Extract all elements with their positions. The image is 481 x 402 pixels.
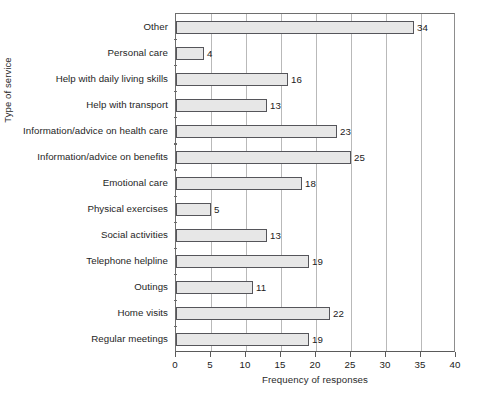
- x-axis-title: Frequency of responses: [175, 374, 455, 385]
- category-label: Physical exercises: [87, 202, 168, 215]
- bar-value-label: 16: [288, 73, 302, 86]
- bar: [176, 47, 204, 60]
- x-axis-tick: [210, 352, 211, 357]
- category-label: Other: [144, 20, 168, 33]
- bar: [176, 307, 330, 320]
- category-label: Emotional care: [103, 176, 168, 189]
- x-axis-tick-label: 25: [335, 359, 365, 370]
- category-label: Information/advice on health care: [23, 124, 168, 137]
- x-axis-tick-label: 5: [195, 359, 225, 370]
- bar: [176, 255, 309, 268]
- x-axis-tick: [350, 352, 351, 357]
- bar-value-label: 23: [337, 125, 351, 138]
- category-label: Help with daily living skills: [56, 72, 168, 85]
- bar-value-label: 13: [267, 229, 281, 242]
- bar: [176, 21, 414, 34]
- x-axis-tick: [385, 352, 386, 357]
- bar: [176, 333, 309, 346]
- bar-value-label: 34: [414, 21, 428, 34]
- category-label: Home visits: [117, 306, 168, 319]
- x-axis-tick: [175, 352, 176, 357]
- bar-value-label: 19: [309, 333, 323, 346]
- category-label: Outings: [134, 280, 168, 293]
- y-axis-tick: [174, 91, 178, 92]
- y-axis-tick: [174, 117, 178, 118]
- gridline: [316, 14, 317, 351]
- bar: [176, 177, 302, 190]
- bar: [176, 229, 267, 242]
- gridline: [421, 14, 422, 351]
- category-axis-labels: OtherPersonal careHelp with daily living…: [0, 13, 172, 352]
- bar-value-label: 22: [330, 307, 344, 320]
- y-axis-tick: [174, 169, 178, 170]
- y-axis-tick: [174, 39, 178, 40]
- bar-value-label: 25: [351, 151, 365, 164]
- y-axis-tick: [174, 300, 178, 301]
- x-axis-tick-label: 30: [370, 359, 400, 370]
- bar: [176, 203, 211, 216]
- bar-value-label: 4: [204, 47, 212, 60]
- y-axis-tick: [174, 222, 178, 223]
- category-label: Information/advice on benefits: [37, 150, 168, 163]
- gridline: [351, 14, 352, 351]
- x-axis-tick: [245, 352, 246, 357]
- x-axis-tick-label: 35: [405, 359, 435, 370]
- y-axis-tick: [174, 248, 178, 249]
- x-axis-tick-label: 0: [160, 359, 190, 370]
- x-axis-tick: [455, 352, 456, 357]
- y-axis-tick: [174, 65, 178, 66]
- x-axis-tick-label: 15: [265, 359, 295, 370]
- category-label: Help with transport: [86, 98, 168, 111]
- bar-value-label: 13: [267, 99, 281, 112]
- bar: [176, 99, 267, 112]
- category-label: Regular meetings: [91, 332, 168, 345]
- gridline: [386, 14, 387, 351]
- bar-value-label: 11: [253, 281, 266, 294]
- bar-value-label: 5: [211, 203, 219, 216]
- y-axis-tick: [174, 326, 178, 327]
- y-axis-tick: [174, 274, 178, 275]
- category-label: Telephone helpline: [86, 254, 168, 267]
- y-axis-tick: [174, 143, 178, 144]
- plot-area: 344161323251851319112219: [175, 13, 455, 352]
- bar-chart: Type of service OtherPersonal careHelp w…: [0, 0, 481, 402]
- bar: [176, 73, 288, 86]
- bar-value-label: 18: [302, 177, 316, 190]
- y-axis-tick: [174, 196, 178, 197]
- x-axis-tick: [315, 352, 316, 357]
- category-label: Personal care: [108, 46, 168, 59]
- bar: [176, 125, 337, 138]
- x-axis-tick-label: 10: [230, 359, 260, 370]
- bar: [176, 281, 253, 294]
- x-axis-tick: [280, 352, 281, 357]
- x-axis-tick-label: 20: [300, 359, 330, 370]
- bar-value-label: 19: [309, 255, 323, 268]
- category-label: Social activities: [101, 228, 168, 241]
- x-axis-tick-label: 40: [440, 359, 470, 370]
- x-axis-tick: [420, 352, 421, 357]
- bar: [176, 151, 351, 164]
